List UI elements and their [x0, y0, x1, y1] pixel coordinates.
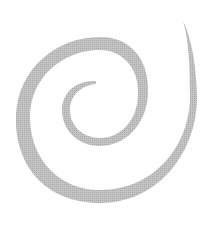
spiral-icon	[0, 0, 221, 228]
spiral-graphic	[0, 0, 221, 228]
spiral-arm	[16, 21, 197, 203]
